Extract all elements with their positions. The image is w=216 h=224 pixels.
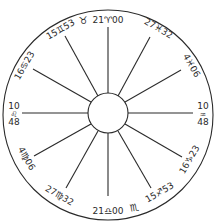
cusp-label-1-top: 10 — [197, 101, 209, 111]
cusp-label-6: 4♍06 — [16, 145, 37, 172]
horoscope-wheel: 21♈00 27♓32 4♓06 10 ♒ 48 16♑23 15♐53 ♏ 2… — [0, 0, 216, 224]
cusp-line-3 — [118, 131, 151, 188]
cusp-line-9 — [65, 36, 98, 96]
cusp-label-2: 16♑23 — [177, 144, 201, 176]
cusp-label-7-bottom: 48 — [8, 117, 20, 127]
cusp-line-5 — [66, 131, 98, 188]
cusp-label-4: 21♎00 — [93, 206, 124, 216]
intercepted-sign-taurus: ♉ — [78, 14, 88, 26]
inner-circle — [88, 93, 128, 133]
cusp-label-11: 27♓32 — [143, 16, 175, 40]
cusp-line-6 — [34, 124, 91, 156]
cusp-line-8 — [33, 69, 91, 102]
cusp-label-10: 21♈00 — [93, 15, 124, 25]
cusp-label-12: 4♓06 — [181, 52, 202, 79]
cusp-line-12 — [125, 70, 181, 102]
intercepted-sign-scorpio: ♏ — [129, 201, 140, 213]
cusp-line-11 — [118, 37, 150, 96]
cusp-label-1-bottom: 48 — [197, 117, 209, 127]
cusp-line-2 — [125, 124, 182, 157]
cusp-label-5: 27♍32 — [44, 183, 76, 207]
